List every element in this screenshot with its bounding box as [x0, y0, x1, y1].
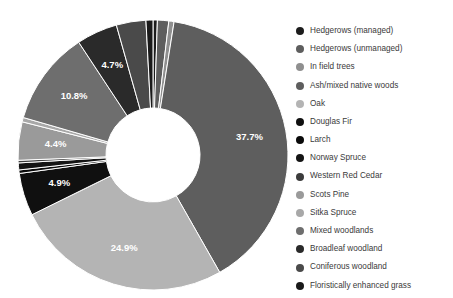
legend-swatch-icon	[296, 63, 304, 71]
legend-item[interactable]: Larch	[296, 131, 453, 149]
legend-item-label: Broadleaf woodland	[310, 245, 382, 253]
pie-slices-group	[18, 20, 288, 290]
pie-slice-label: 4.7%	[101, 59, 123, 70]
donut-chart-svg: 37.7%24.9%4.9%4.4%10.8%4.7%	[0, 0, 290, 298]
legend-swatch-icon	[296, 227, 304, 235]
legend-item-label: Norway Spruce	[310, 154, 366, 162]
legend-swatch-icon	[296, 45, 304, 53]
legend-swatch-icon	[296, 209, 304, 217]
legend-item-label: Douglas Fir	[310, 118, 352, 126]
pie-slice-label: 37.7%	[236, 131, 263, 142]
legend-swatch-icon	[296, 191, 304, 199]
legend-swatch-icon	[296, 100, 304, 108]
legend-item-label: Hedgerows (managed)	[310, 27, 393, 35]
legend-item-label: In field trees	[310, 63, 355, 71]
legend-swatch-icon	[296, 264, 304, 272]
legend-item[interactable]: Oak	[296, 95, 453, 113]
legend-item[interactable]: Hedgerows (managed)	[296, 22, 453, 40]
pie-slice-label: 24.9%	[111, 242, 138, 253]
legend-item[interactable]: Ash/mixed native woods	[296, 77, 453, 95]
legend-swatch-icon	[296, 82, 304, 90]
legend-swatch-icon	[296, 154, 304, 162]
legend-item[interactable]: Hedgerows (unmanaged)	[296, 40, 453, 58]
legend-item-label: Hedgerows (unmanaged)	[310, 45, 402, 53]
legend-item[interactable]: Norway Spruce	[296, 149, 453, 167]
legend-swatch-icon	[296, 27, 304, 35]
pie-slice-label: 10.8%	[61, 90, 88, 101]
pie-slice-label: 4.9%	[48, 177, 70, 188]
legend-item[interactable]: Floristically enhanced grass	[296, 277, 453, 295]
legend-item-label: Floristically enhanced grass	[310, 282, 411, 290]
legend-swatch-icon	[296, 136, 304, 144]
legend-item-label: Coniferous woodland	[310, 263, 387, 271]
chart-legend: Hedgerows (managed)Hedgerows (unmanaged)…	[296, 22, 453, 295]
legend-item[interactable]: Western Red Cedar	[296, 168, 453, 186]
pie-slice-label: 4.4%	[45, 138, 67, 149]
legend-item[interactable]: In field trees	[296, 58, 453, 76]
legend-item[interactable]: Mixed woodlands	[296, 222, 453, 240]
legend-item-label: Sitka Spruce	[310, 209, 356, 217]
legend-item-label: Ash/mixed native woods	[310, 82, 398, 90]
legend-item-label: Scots Pine	[310, 191, 349, 199]
legend-item[interactable]: Scots Pine	[296, 186, 453, 204]
legend-item[interactable]: Broadleaf woodland	[296, 240, 453, 258]
legend-item-label: Larch	[310, 136, 330, 144]
legend-swatch-icon	[296, 282, 304, 290]
legend-swatch-icon	[296, 118, 304, 126]
legend-item[interactable]: Sitka Spruce	[296, 204, 453, 222]
legend-item-label: Oak	[310, 100, 325, 108]
legend-item-label: Western Red Cedar	[310, 172, 382, 180]
legend-item[interactable]: Coniferous woodland	[296, 258, 453, 276]
legend-item[interactable]: Douglas Fir	[296, 113, 453, 131]
legend-swatch-icon	[296, 245, 304, 253]
legend-swatch-icon	[296, 173, 304, 181]
donut-chart: 37.7%24.9%4.9%4.4%10.8%4.7%	[0, 0, 290, 298]
legend-item-label: Mixed woodlands	[310, 227, 373, 235]
